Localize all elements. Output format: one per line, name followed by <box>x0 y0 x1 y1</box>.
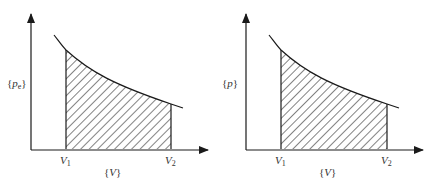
work-area-hatched <box>281 50 387 149</box>
right-diagram: {p} V1 V2 {V} <box>222 14 423 178</box>
x-axis-label: {V} <box>104 166 121 178</box>
v1-label: V1 <box>60 154 71 168</box>
pv-diagrams: {pe} V1 V2 {V} {p} V1 V2 {V} <box>0 0 430 185</box>
v2-label: V2 <box>381 154 392 168</box>
left-diagram: {pe} V1 V2 {V} <box>7 14 208 178</box>
y-axis-label: {pe} <box>7 77 27 91</box>
work-area-hatched <box>66 50 171 149</box>
x-axis-label: {V} <box>319 166 336 178</box>
y-axis-label: {p} <box>222 77 238 89</box>
v1-label: V1 <box>275 154 286 168</box>
v2-label: V2 <box>165 154 176 168</box>
